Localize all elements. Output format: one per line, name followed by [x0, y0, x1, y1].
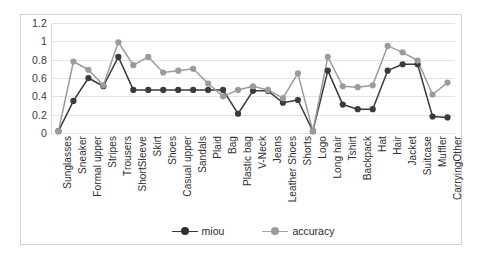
data-point-accuracy: [100, 82, 106, 88]
data-point-miou: [85, 75, 91, 81]
legend-item-accuracy: accuracy: [262, 226, 334, 236]
x-tick-label: Leather Shoes: [287, 136, 298, 202]
data-point-accuracy: [325, 54, 331, 60]
y-tick-label: 1: [41, 35, 47, 47]
x-tick-label: Jacket: [407, 136, 418, 166]
data-point-miou: [444, 114, 450, 120]
data-point-miou: [340, 101, 346, 107]
data-point-accuracy: [265, 87, 271, 93]
y-tick-label: 0.6: [32, 72, 47, 84]
data-point-accuracy: [385, 43, 391, 49]
data-point-miou: [400, 61, 406, 67]
legend-label-accuracy: accuracy: [292, 226, 334, 236]
x-tick-label: Sneaker: [77, 136, 88, 174]
x-tick-label: Shorts: [302, 136, 313, 166]
data-point-miou: [115, 54, 121, 60]
chart-legend: miou accuracy: [51, 222, 455, 240]
data-point-accuracy: [250, 83, 256, 89]
x-tick-label: Sandals: [197, 136, 208, 173]
x-tick-label: ShortSleeve: [137, 136, 148, 192]
data-point-miou: [355, 106, 361, 112]
data-point-accuracy: [70, 58, 76, 64]
data-point-accuracy: [429, 91, 435, 97]
chart-container: 00.20.40.60.811.2 SunglassesSneakerForma…: [0, 0, 481, 258]
plot-area: [51, 23, 455, 133]
data-point-miou: [370, 106, 376, 112]
x-tick-label: V-Neck: [257, 136, 268, 169]
data-point-miou: [385, 68, 391, 74]
x-tick-label: Logo: [317, 136, 328, 159]
legend-marker-accuracy: [262, 226, 288, 236]
data-point-miou: [295, 97, 301, 103]
data-point-miou: [325, 68, 331, 74]
x-tick-label: Bag: [227, 136, 238, 154]
data-point-accuracy: [295, 70, 301, 76]
x-tick-label: Plaid: [212, 136, 223, 159]
legend-label-miou: miou: [202, 226, 225, 236]
data-point-accuracy: [280, 95, 286, 101]
x-tick-label: Hat: [377, 136, 388, 152]
data-point-accuracy: [85, 67, 91, 73]
x-tick-label: Trousers: [122, 136, 133, 176]
x-tick-label: Jeans: [272, 136, 283, 163]
x-tick-label: CarryingOther: [452, 136, 463, 200]
x-tick-label: Skirt: [152, 136, 163, 157]
x-tick-label: Sunglasses: [62, 136, 73, 189]
x-tick-label: Long hair: [332, 136, 343, 179]
y-tick-label: 0.8: [32, 54, 47, 66]
data-point-miou: [160, 87, 166, 93]
data-point-miou: [70, 98, 76, 104]
x-tick-label: Suitcase: [422, 136, 433, 175]
series-lines: [51, 23, 455, 134]
x-tick-label: Stripes: [107, 136, 118, 168]
x-tick-label: Backpack: [362, 136, 373, 180]
legend-item-miou: miou: [172, 226, 225, 236]
y-axis-labels: 00.20.40.60.811.2: [0, 0, 47, 258]
x-tick-label: Tshirt: [347, 136, 358, 161]
y-tick-label: 0.4: [32, 90, 47, 102]
data-point-accuracy: [220, 93, 226, 99]
data-point-miou: [175, 87, 181, 93]
x-tick-label: Hair: [392, 136, 403, 155]
data-point-accuracy: [235, 87, 241, 93]
data-point-miou: [130, 87, 136, 93]
legend-marker-miou: [172, 226, 198, 236]
data-point-accuracy: [145, 54, 151, 60]
data-point-accuracy: [340, 83, 346, 89]
x-tick-label: Shoes: [167, 136, 178, 165]
data-point-accuracy: [414, 57, 420, 63]
data-point-miou: [145, 87, 151, 93]
x-tick-label: Plastic bag: [242, 136, 253, 186]
data-point-miou: [205, 87, 211, 93]
data-point-accuracy: [444, 79, 450, 85]
data-point-accuracy: [355, 84, 361, 90]
data-point-accuracy: [130, 62, 136, 68]
data-point-accuracy: [190, 66, 196, 72]
data-point-miou: [429, 113, 435, 119]
data-point-accuracy: [400, 49, 406, 55]
data-point-accuracy: [205, 80, 211, 86]
x-tick-label: Muffler: [437, 136, 448, 167]
y-tick-label: 0.2: [32, 109, 47, 121]
data-point-miou: [235, 111, 241, 117]
x-axis-labels: SunglassesSneakerFormal upperStripesTrou…: [51, 134, 455, 220]
x-tick-label: Formal upper: [92, 136, 103, 197]
data-point-accuracy: [115, 39, 121, 45]
data-point-miou: [220, 87, 226, 93]
data-point-accuracy: [370, 82, 376, 88]
y-tick-label: 1.2: [32, 17, 47, 29]
x-tick-label: Casual upper: [182, 136, 193, 197]
y-tick-label: 0: [41, 127, 47, 139]
data-point-miou: [190, 87, 196, 93]
data-point-accuracy: [160, 69, 166, 75]
data-point-accuracy: [175, 68, 181, 74]
